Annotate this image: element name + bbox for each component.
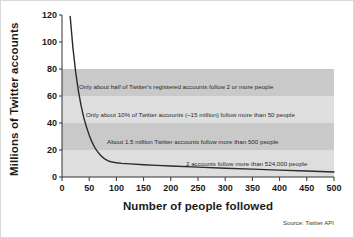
x-axis-ticks [62, 177, 334, 181]
chart-figure: Millions of Twitter accounts 0 20 40 60 … [0, 0, 354, 238]
annotation-text: About 1.5 million Twitter accounts follo… [107, 138, 279, 145]
annotation-text: Only about half of Twitter's registered … [79, 83, 274, 90]
x-tick-label: 300 [218, 183, 233, 193]
y-tick-label: 80 [47, 64, 57, 74]
x-tick-label: 250 [190, 183, 205, 193]
y-tick-label: 120 [42, 10, 57, 20]
x-tick-label: 100 [109, 183, 124, 193]
band-60-40 [62, 96, 334, 123]
y-tick-label: 60 [47, 91, 57, 101]
x-tick-label: 400 [272, 183, 287, 193]
x-tick-label: 150 [136, 183, 151, 193]
annotation-text: Only about 10% of Twitter accounts (~15 … [86, 111, 295, 118]
x-tick-label: 200 [163, 183, 178, 193]
y-axis-tick-labels: 0 20 40 60 80 100 120 [42, 10, 57, 182]
x-axis-title: Number of people followed [123, 200, 273, 212]
y-tick-label: 40 [47, 118, 57, 128]
x-tick-label: 450 [299, 183, 314, 193]
annotation-text: 2 accounts follow more than 524,000 peop… [186, 160, 308, 167]
x-tick-label: 500 [326, 183, 341, 193]
source-note: Source: Twitter API [283, 220, 334, 226]
y-tick-label: 20 [47, 145, 57, 155]
x-tick-label: 350 [245, 183, 260, 193]
y-tick-label: 100 [42, 37, 57, 47]
band-40-20 [62, 123, 334, 150]
x-axis-tick-labels: 0 50 100 150 200 250 300 350 400 450 500 [59, 183, 341, 193]
y-axis-title: Millions of Twitter accounts [8, 23, 20, 176]
twitter-following-distribution-chart: Millions of Twitter accounts 0 20 40 60 … [1, 1, 354, 238]
y-tick-label: 0 [52, 172, 57, 182]
x-tick-label: 50 [84, 183, 94, 193]
x-tick-label: 0 [59, 183, 64, 193]
